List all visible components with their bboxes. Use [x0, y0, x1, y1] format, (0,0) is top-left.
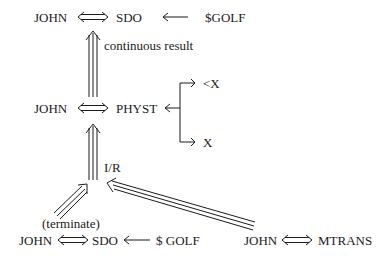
- bottom-left-two-way-arrow-icon: [58, 235, 88, 245]
- bottom-left-actor: JOHN: [19, 233, 53, 248]
- lower-branch-value: X: [203, 135, 213, 150]
- triple-arrow-up-icon: [86, 124, 100, 180]
- bottom-right-actor: JOHN: [244, 233, 278, 248]
- branch-arrow-icon: [165, 79, 195, 146]
- long-triple-arrow-icon: [107, 178, 255, 230]
- bottom-right-act: MTRANS: [318, 233, 372, 248]
- bottom-object-arrow-icon: [124, 236, 150, 244]
- top-object: $GOLF: [205, 10, 245, 25]
- cd-diagram: JOHN SDO $GOLF continuous result JOHN PH…: [0, 0, 386, 256]
- continuous-result-label: continuous result: [104, 38, 194, 53]
- diagonal-triple-arrow-icon: [54, 184, 87, 219]
- middle-actor: JOHN: [34, 101, 68, 116]
- top-act: SDO: [116, 10, 142, 25]
- bottom-right-two-way-arrow-icon: [282, 235, 312, 245]
- top-two-way-arrow-icon: [78, 12, 108, 22]
- terminate-label: (terminate): [42, 216, 100, 231]
- top-actor: JOHN: [34, 10, 68, 25]
- bottom-left-act: SDO: [92, 233, 118, 248]
- ir-label: I/R: [104, 160, 121, 175]
- upper-branch-value: <X: [203, 76, 220, 91]
- middle-act: PHYST: [116, 101, 157, 116]
- top-object-arrow-icon: [163, 13, 188, 21]
- triple-arrow-up-icon: [86, 31, 100, 97]
- bottom-left-object: $ GOLF: [156, 233, 200, 248]
- middle-two-way-arrow-icon: [78, 103, 108, 113]
